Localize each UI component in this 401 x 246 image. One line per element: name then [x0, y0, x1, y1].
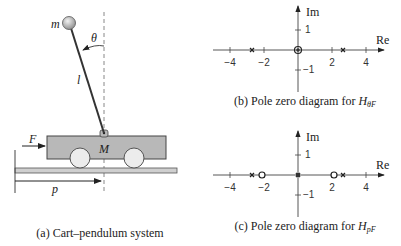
caption-c-subscript: pF: [366, 225, 376, 234]
x-tick-label: −2: [258, 57, 270, 68]
x-tick-label: 4: [363, 182, 369, 193]
theta-arc: [83, 46, 104, 51]
y-tick-label: −1: [303, 189, 315, 200]
y-tick-label: 1: [305, 149, 311, 160]
pendulum-mass: [63, 17, 76, 30]
pendulum-rod: [70, 25, 104, 133]
caption-b-prefix: (b) Pole zero diagram for: [234, 94, 358, 108]
x-tick-label: −4: [224, 182, 236, 193]
x-tick-label: 4: [363, 57, 369, 68]
x-tick-label: −4: [224, 57, 236, 68]
double-pole-marker-fill: [296, 173, 300, 177]
wheel-left: [70, 148, 90, 168]
x-tick-label: 2: [329, 182, 335, 193]
caption-b: (b) Pole zero diagram for HθF: [234, 94, 376, 109]
cart-pendulum-panel: m θ l F M p (a) Cart–pendulum system: [15, 12, 177, 240]
x-tick-label: 2: [329, 57, 335, 68]
caption-b-subscript: θF: [367, 100, 376, 109]
wheel-right: [124, 148, 144, 168]
label-p: p: [51, 182, 58, 196]
zero-marker: [259, 172, 265, 178]
label-m: m: [51, 17, 60, 31]
im-label: Im: [306, 5, 320, 19]
label-F: F: [28, 132, 37, 146]
label-l: l: [77, 73, 81, 87]
figure: m θ l F M p (a) Cart–pendulum system −4 …: [0, 0, 401, 246]
re-label: Re: [376, 158, 389, 172]
im-label: Im: [306, 130, 320, 144]
label-theta: θ: [91, 31, 97, 45]
pole-zero-panel-c: −4 −2 2 4 1 −1 Im Re (c) Pole zero diagr…: [213, 130, 389, 234]
y-tick-label: 1: [305, 24, 311, 35]
caption-c-prefix: (c) Pole zero diagram for: [234, 219, 358, 233]
ground: [15, 168, 177, 173]
label-M: M: [98, 142, 110, 156]
caption-c: (c) Pole zero diagram for HpF: [234, 219, 375, 234]
x-tick-label: −2: [258, 182, 270, 193]
zero-marker: [331, 172, 337, 178]
re-label: Re: [376, 33, 389, 47]
caption-a: (a) Cart–pendulum system: [36, 226, 164, 240]
pole-marker: [296, 48, 300, 52]
y-tick-label: −1: [303, 64, 315, 75]
pole-zero-panel-b: −4 −2 2 4 1 −1 Im Re (b) Pole zero diagr…: [213, 5, 389, 109]
